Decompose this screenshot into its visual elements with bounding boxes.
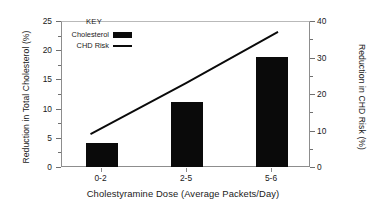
- right-tick-0: [310, 167, 315, 168]
- legend-bar-swatch-icon: [113, 32, 132, 38]
- x-tick-5-6: [271, 168, 272, 172]
- right-minor-tick: [310, 149, 313, 150]
- legend-title: KEY: [56, 17, 132, 26]
- legend-line-swatch-icon: [113, 45, 132, 47]
- left-tick-label-0: 0: [30, 162, 52, 172]
- x-tick-label-5-6: 5-6: [246, 173, 296, 183]
- chart-legend: KEY Cholesterol CHD Risk: [56, 17, 132, 51]
- x-tick-label-0-2: 0-2: [76, 173, 126, 183]
- legend-label-chd-risk: CHD Risk: [77, 41, 109, 50]
- bar-5-6: [256, 57, 288, 167]
- legend-label-cholesterol: Cholesterol: [72, 30, 109, 39]
- right-tick-20: [310, 94, 315, 95]
- right-y-axis-title: Reduction in CHD Risk (%): [357, 12, 367, 182]
- legend-item-cholesterol: Cholesterol: [56, 29, 132, 40]
- bar-0-2: [86, 143, 118, 167]
- left-tick-label-10: 10: [30, 104, 52, 114]
- left-tick-label-15: 15: [30, 74, 52, 84]
- right-tick-label-30: 30: [317, 53, 339, 63]
- left-y-axis-title: Reduction in Total Cholesterol (%): [21, 12, 31, 182]
- right-tick-label-0: 0: [317, 162, 339, 172]
- left-tick-label-5: 5: [30, 133, 52, 143]
- right-tick-label-20: 20: [317, 89, 339, 99]
- right-tick-40: [310, 21, 315, 22]
- right-minor-tick: [310, 112, 313, 113]
- right-minor-tick: [310, 39, 313, 40]
- legend-item-chd-risk: CHD Risk: [56, 40, 132, 51]
- right-tick-label-10: 10: [317, 126, 339, 136]
- x-tick-0-2: [101, 168, 102, 172]
- right-tick-30: [310, 58, 315, 59]
- right-tick-label-40: 40: [317, 16, 339, 26]
- left-tick-0: [56, 167, 61, 168]
- bar-2-5: [171, 102, 203, 167]
- left-tick-label-20: 20: [30, 45, 52, 55]
- right-tick-10: [310, 131, 315, 132]
- right-minor-tick: [310, 76, 313, 77]
- x-tick-label-2-5: 2-5: [161, 173, 211, 183]
- x-axis-title: Cholestyramine Dose (Average Packets/Day…: [0, 188, 366, 199]
- left-tick-label-25: 25: [30, 16, 52, 26]
- x-tick-2-5: [186, 168, 187, 172]
